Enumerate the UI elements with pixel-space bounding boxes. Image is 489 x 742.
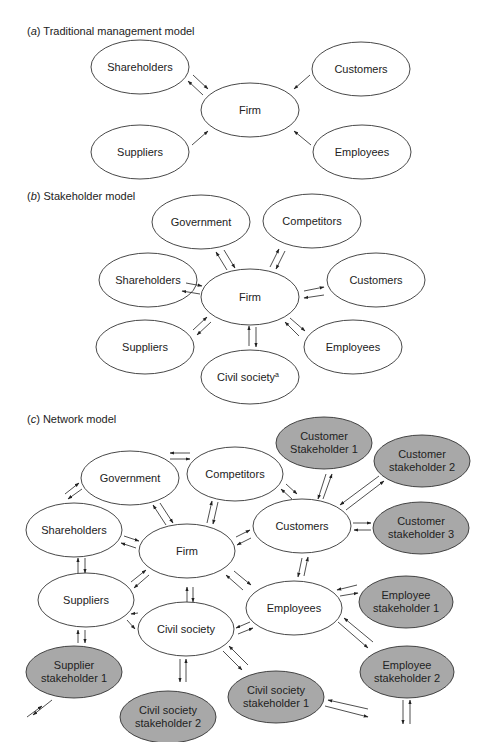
node-employee-stakeholder-1: Employee stakeholder 1 [359, 576, 453, 628]
node-government: Government [81, 451, 179, 505]
svg-text:stakeholder 1: stakeholder 1 [373, 602, 439, 614]
panel-a-title: (a) Traditional management model [27, 25, 195, 37]
svg-text:Government: Government [100, 472, 161, 484]
node-customer-stakeholder-3: Customer stakeholder 3 [373, 502, 469, 554]
node-customers: Customers [253, 499, 351, 553]
svg-text:Shareholders: Shareholders [107, 61, 173, 73]
svg-text:Suppliers: Suppliers [122, 341, 168, 353]
svg-text:Customer: Customer [397, 515, 445, 527]
svg-text:Employees: Employees [267, 602, 322, 614]
node-competitors: Competitors [263, 194, 361, 248]
node-customer-stakeholder-2: Customer stakeholder 2 [374, 435, 470, 487]
node-supplier-stakeholder-1: Supplier stakeholder 1 [26, 646, 122, 698]
svg-text:Customers: Customers [275, 520, 329, 532]
node-shareholders: Shareholders [26, 503, 122, 557]
svg-text:Competitors: Competitors [282, 215, 342, 227]
node-suppliers: Suppliers [96, 320, 194, 374]
node-customers: Customers [327, 253, 425, 307]
node-customer-stakeholder-1: Customer Stakeholder 1 [276, 417, 372, 469]
node-civil-society-stakeholder-2: Civil society stakeholder 2 [120, 691, 216, 742]
svg-text:Shareholders: Shareholders [41, 524, 107, 536]
node-competitors: Competitors [187, 447, 283, 501]
svg-text:Suppliers: Suppliers [117, 146, 163, 158]
svg-text:Firm: Firm [239, 291, 261, 303]
svg-text:Employee: Employee [382, 589, 431, 601]
svg-text:Civil societya: Civil societya [217, 371, 279, 383]
svg-text:Shareholders: Shareholders [115, 274, 181, 286]
svg-text:Employees: Employees [326, 341, 381, 353]
svg-text:Customer: Customer [398, 448, 446, 460]
node-employee-stakeholder-2: Employee stakeholder 2 [360, 646, 454, 698]
svg-text:stakeholder 1: stakeholder 1 [243, 697, 309, 709]
panel-a-traditional-model: (a) Traditional management model Shareho… [27, 25, 411, 179]
node-firm: Firm [201, 269, 299, 325]
node-suppliers: Suppliers [91, 125, 189, 179]
svg-text:Supplier: Supplier [54, 659, 95, 671]
svg-text:Customers: Customers [349, 274, 403, 286]
svg-text:Competitors: Competitors [205, 468, 265, 480]
node-civil-society: Civil societya [201, 350, 299, 404]
svg-text:Customers: Customers [334, 63, 388, 75]
node-shareholders: Shareholders [99, 253, 197, 307]
node-customers: Customers [312, 42, 410, 96]
node-suppliers: Suppliers [38, 573, 134, 627]
node-firm: Firm [201, 83, 299, 137]
svg-text:Customer: Customer [300, 430, 348, 442]
node-firm: Firm [139, 524, 235, 578]
svg-text:Civil society: Civil society [139, 704, 198, 716]
panel-b-title: (b) Stakeholder model [27, 190, 135, 202]
node-employees: Employees [304, 320, 402, 374]
svg-text:Employee: Employee [383, 659, 432, 671]
node-government: Government [152, 195, 250, 249]
svg-text:stakeholder 3: stakeholder 3 [388, 528, 454, 540]
node-civil-society-stakeholder-1: Civil society stakeholder 1 [228, 671, 324, 723]
svg-text:stakeholder 1: stakeholder 1 [41, 672, 107, 684]
panel-b-stakeholder-model: (b) Stakeholder model Government Competi… [27, 190, 425, 404]
svg-text:Employees: Employees [335, 146, 390, 158]
svg-text:Civil society: Civil society [157, 623, 216, 635]
svg-text:Stakeholder 1: Stakeholder 1 [290, 443, 358, 455]
svg-text:Civil society: Civil society [247, 684, 306, 696]
svg-text:stakeholder 2: stakeholder 2 [389, 461, 455, 473]
svg-text:Firm: Firm [239, 104, 261, 116]
svg-text:Suppliers: Suppliers [63, 594, 109, 606]
svg-text:stakeholder 2: stakeholder 2 [374, 672, 440, 684]
panel-c-title: (c) Network model [27, 413, 116, 425]
node-employees: Employees [313, 125, 411, 179]
stakeholder-models-figure: (a) Traditional management model Shareho… [0, 0, 489, 742]
node-civil-society: Civil society [138, 602, 234, 656]
node-employees: Employees [246, 581, 342, 635]
svg-text:stakeholder 2: stakeholder 2 [135, 717, 201, 729]
node-shareholders: Shareholders [91, 40, 189, 94]
svg-text:Government: Government [171, 216, 232, 228]
panel-c-network-model: (c) Network model Customer Stakeholder 1… [26, 413, 470, 742]
svg-text:Firm: Firm [176, 545, 198, 557]
